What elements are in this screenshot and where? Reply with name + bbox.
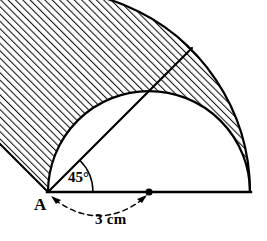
vertex-label-a: A [34, 196, 46, 213]
geometry-figure: 45° A 3 cm [0, 0, 267, 241]
centre-dot [145, 188, 152, 195]
radius-label: 3 cm [95, 212, 127, 227]
angle-label: 45° [68, 170, 89, 185]
